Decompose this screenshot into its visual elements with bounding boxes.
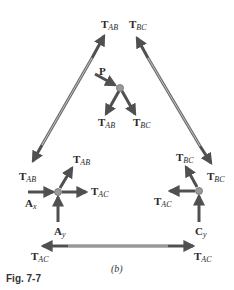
arrow-b-tab [106,91,119,114]
label-bottom-right-tac: TAC [194,251,212,264]
member-bc [137,38,211,163]
arrow-a-tab [60,168,72,188]
label-b-tab: TAB [98,117,115,130]
arrow-right-tbc [200,146,211,163]
arrow-c-tbc [186,167,197,187]
label-p: P [99,66,106,77]
arrow-b-tbc [122,91,135,114]
joint-c [170,167,203,222]
arrow-left-tab [33,145,42,161]
member-ab [33,36,104,161]
label-c-tac: TAC [154,196,172,209]
label-c-tbc: TBC [176,152,194,165]
arrow-top-tab [92,36,104,58]
label-bottom-left-tac: TAC [31,251,49,264]
label-left-member-tab: TAB [19,171,36,184]
arrow-top-tbc [137,38,148,58]
truss-free-body-diagram [0,0,234,290]
label-cy: Cy [195,226,207,239]
label-top-tab: TAB [101,19,118,32]
label-a-tac: TAC [91,186,109,199]
figure-caption: (b) [111,263,123,274]
label-ay: Ay [54,226,66,239]
label-b-tbc: TBC [133,117,151,130]
figure-label: Fig. 7-7 [6,273,41,284]
label-a-tab: TAB [73,154,90,167]
label-ax: Ax [25,198,37,211]
label-top-tbc: TBC [129,19,147,32]
label-right-member-tbc: TBC [207,171,225,184]
joint-b [95,74,135,114]
joint-a [28,168,86,222]
